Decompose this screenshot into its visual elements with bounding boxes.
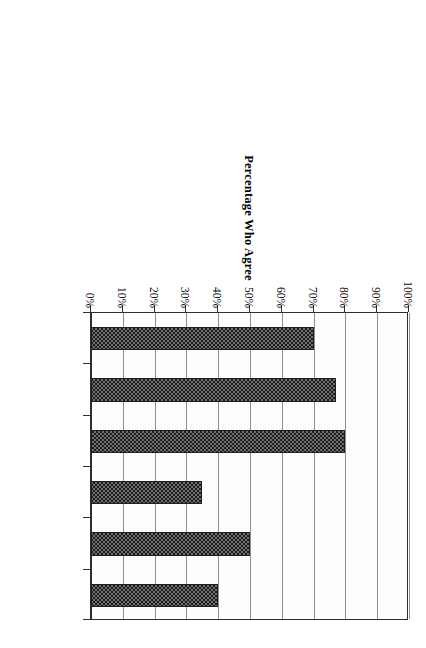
bars-layer	[91, 313, 407, 619]
chart-canvas: 0%10%20%30%40%50%60%70%80%90%100% Percen…	[0, 0, 426, 648]
value-axis-label-40pct: 40%	[211, 256, 223, 308]
bar-6	[91, 584, 218, 608]
gridline-100%	[409, 313, 410, 619]
category-tick-5	[83, 569, 90, 570]
bar-3	[91, 430, 345, 454]
value-axis-labels: 0%10%20%30%40%50%60%70%80%90%100%	[0, 252, 426, 308]
category-tick-marks	[83, 312, 90, 620]
value-axis-label-70pct: 70%	[307, 256, 319, 308]
value-axis-label-60pct: 60%	[275, 256, 287, 308]
value-axis-label-10pct: 10%	[116, 256, 128, 308]
category-tick-2	[83, 415, 90, 416]
category-tick-4	[83, 517, 90, 518]
category-tick-0	[83, 312, 90, 313]
category-tick-1	[83, 363, 90, 364]
value-axis-label-30pct: 30%	[179, 256, 191, 308]
value-axis-title: Percentage Who Agree	[90, 188, 408, 248]
category-axis-labels: Parents face barriers to job success, de…	[90, 620, 408, 648]
rotated-chart-stage: 0%10%20%30%40%50%60%70%80%90%100% Percen…	[0, 0, 426, 648]
value-axis-label-90pct: 90%	[370, 256, 382, 308]
bar-5	[91, 532, 250, 556]
value-axis-label-20pct: 20%	[148, 256, 160, 308]
category-tick-3	[83, 466, 90, 467]
chart-figure: 0%10%20%30%40%50%60%70%80%90%100% Percen…	[0, 0, 426, 648]
bar-4	[91, 481, 202, 505]
bar-2	[91, 378, 336, 402]
value-axis-label-0pct: 0%	[84, 256, 96, 308]
value-axis-label-80pct: 80%	[338, 256, 350, 308]
plot-area	[90, 312, 408, 620]
value-axis-label-100pct: 100%	[402, 256, 414, 308]
bar-1	[91, 327, 314, 351]
category-tick-6	[83, 619, 90, 620]
